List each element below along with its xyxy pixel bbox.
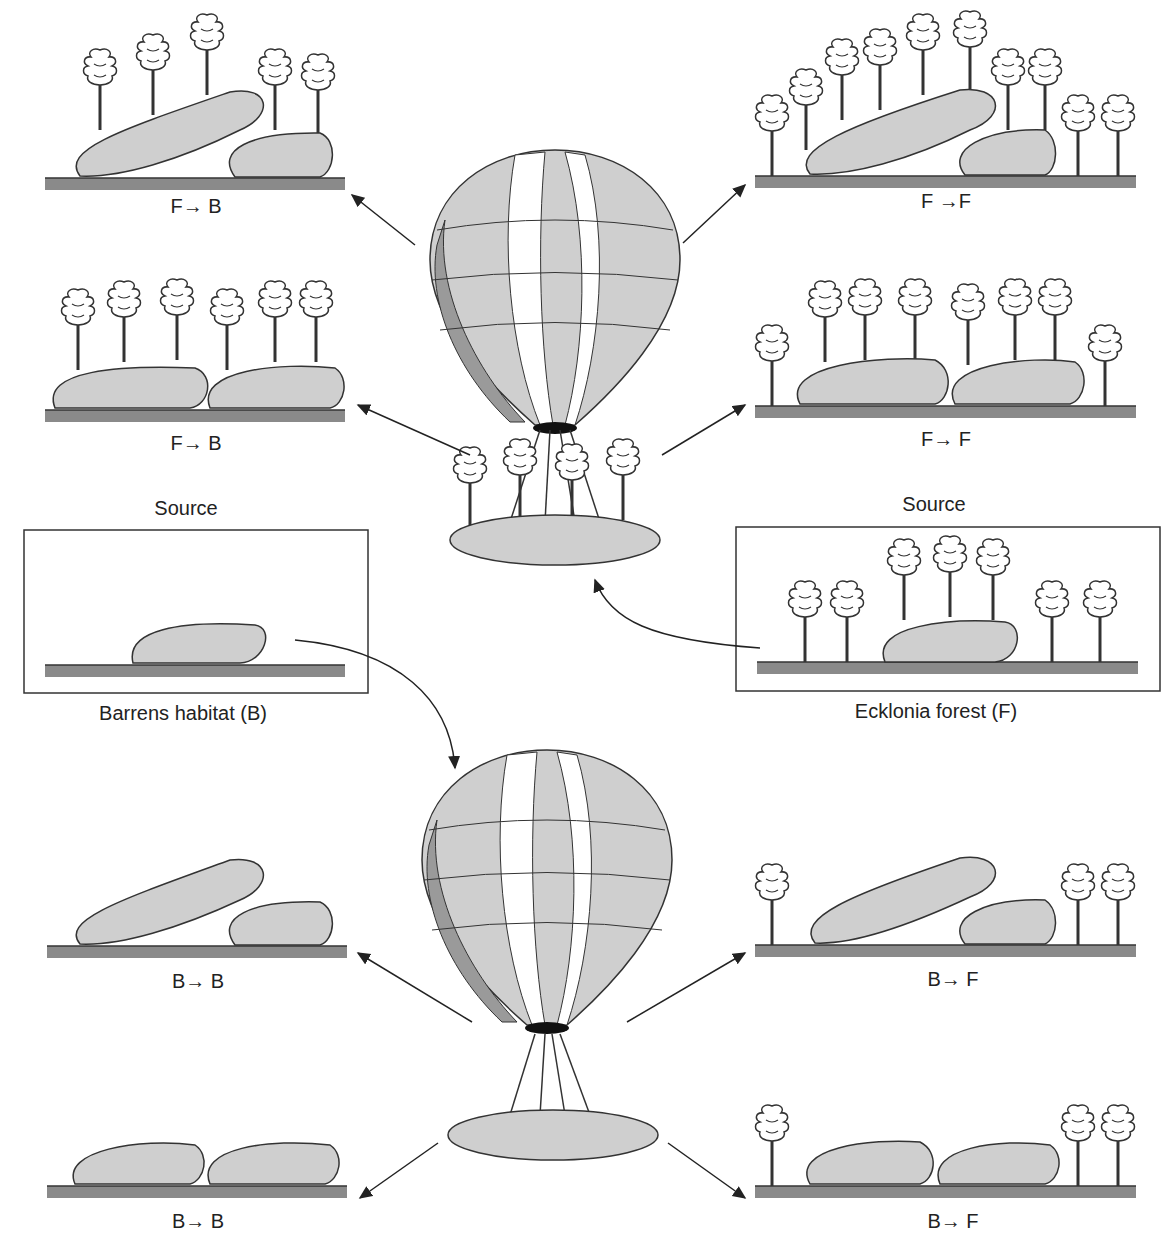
outcome-label-bf-2: B→ F — [927, 1210, 978, 1233]
balloon-top — [430, 150, 680, 434]
diagram-canvas — [0, 0, 1173, 1253]
outcome-label-bb-1: B→ B — [172, 970, 224, 993]
outcome-label-ff-1: F →F — [921, 190, 971, 213]
outcome-label-fb-2: F→ B — [170, 432, 221, 455]
balloon-bottom — [422, 750, 672, 1034]
outcome-label-ff-2: F→ F — [921, 428, 971, 451]
barrens-caption: Barrens habitat (B) — [99, 702, 267, 725]
barrens-source-heading: Source — [154, 497, 217, 520]
outcome-label-bf-1: B→ F — [927, 968, 978, 991]
outcome-label-fb-1: F→ B — [170, 195, 221, 218]
forest-source-heading: Source — [902, 493, 965, 516]
forest-caption: Ecklonia forest (F) — [855, 700, 1017, 723]
outcome-label-bb-2: B→ B — [172, 1210, 224, 1233]
